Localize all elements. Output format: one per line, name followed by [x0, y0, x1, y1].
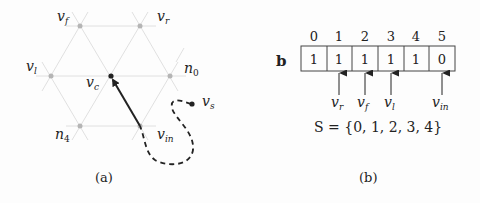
vertex-v-l [49, 74, 54, 79]
cell-1: 1 [335, 52, 343, 67]
index-3: 3 [387, 29, 395, 44]
label-n-0: n0 [184, 60, 199, 78]
caption-b: (b) [359, 170, 377, 185]
vertex-v-f [78, 24, 83, 29]
index-4: 4 [412, 29, 420, 44]
index-0: 0 [310, 29, 318, 44]
set-expression: S = {0, 1, 2, 3, 4} [314, 119, 442, 135]
array-indices: 0 1 2 3 4 5 [310, 29, 446, 44]
label-v-s: vs [202, 93, 215, 111]
caption-a: (a) [95, 170, 113, 185]
label-v-f: vf [57, 8, 70, 26]
vertex-v-r [138, 24, 143, 29]
label-v-r: vr [157, 8, 170, 26]
label-n-4: n4 [55, 126, 70, 144]
arrow-vin-to-vc [113, 80, 140, 126]
label-v-c: vc [86, 74, 99, 92]
label-v-l: vl [26, 58, 37, 76]
panel-a: vf vr vl vc n0 n4 vin vs (a) [26, 8, 215, 185]
vertex-n-4 [78, 124, 83, 129]
pointer-label-v-in: vin [432, 94, 449, 112]
dashed-trajectory [140, 100, 193, 164]
index-2: 2 [361, 29, 369, 44]
index-5: 5 [438, 29, 446, 44]
cell-5: 0 [438, 52, 446, 67]
vertex-n-0 [168, 74, 173, 79]
label-v-in: vin [157, 126, 174, 144]
pointer-label-v-r: vr [331, 94, 344, 112]
cell-3: 1 [387, 52, 395, 67]
pointer-label-v-f: vf [357, 94, 370, 112]
pointer-label-v-l: vl [384, 94, 395, 112]
panel-b: b 0 1 2 3 4 5 1 1 1 1 1 0 [276, 29, 455, 185]
cell-4: 1 [412, 52, 420, 67]
cell-0: 1 [310, 52, 318, 67]
vertex-v-s [189, 101, 194, 106]
cell-2: 1 [361, 52, 369, 67]
index-1: 1 [335, 29, 343, 44]
figure: vf vr vl vc n0 n4 vin vs (a) b 0 1 2 3 4… [0, 0, 480, 203]
bit-array [301, 46, 455, 71]
vertex-v-c [108, 73, 113, 78]
pointer-arrows [339, 73, 442, 95]
array-label-b: b [276, 52, 287, 70]
